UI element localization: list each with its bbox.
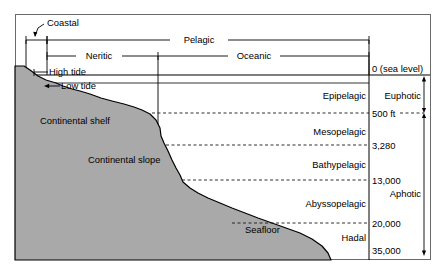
zone-label-bathypelagic: Bathypelagic: [312, 159, 366, 170]
depth-label-500ft: 500 ft: [372, 108, 396, 119]
light-zone-label-euphotic: Euphotic: [385, 90, 422, 101]
zone-label-abyssopelagic: Abyssopelagic: [306, 198, 367, 209]
low-tide-label: Low tide: [61, 80, 96, 91]
continental-shelf-label: Continental shelf: [40, 115, 110, 126]
bracket-label-neritic: Neritic: [86, 50, 113, 61]
continental-slope-label: Continental slope: [88, 154, 160, 165]
seafloor-label: Seafloor: [245, 224, 280, 235]
ocean-zones-diagram: Coastal Pelagic Neritic Oceanic 0 (sea l…: [0, 0, 446, 274]
diagram-canvas: Coastal Pelagic Neritic Oceanic 0 (sea l…: [0, 0, 446, 274]
depth-label-13000: 13,000: [372, 175, 401, 186]
high-tide-label: High tide: [49, 66, 86, 77]
depth-label-35000: 35,000: [372, 245, 401, 256]
light-zone-label-aphotic: Aphotic: [390, 188, 422, 199]
depth-label-20000: 20,000: [372, 218, 401, 229]
depth-label-3280: 3,280: [372, 140, 395, 151]
zone-label-mesopelagic: Mesopelagic: [313, 126, 366, 137]
sea-level-label: 0 (sea level): [372, 63, 423, 74]
bracket-label-pelagic: Pelagic: [184, 34, 215, 45]
bracket-label-coastal: Coastal: [47, 17, 79, 28]
zone-label-hadal: Hadal: [342, 232, 367, 243]
bracket-label-oceanic: Oceanic: [237, 50, 272, 61]
zone-label-epipelagic: Epipelagic: [323, 90, 367, 101]
